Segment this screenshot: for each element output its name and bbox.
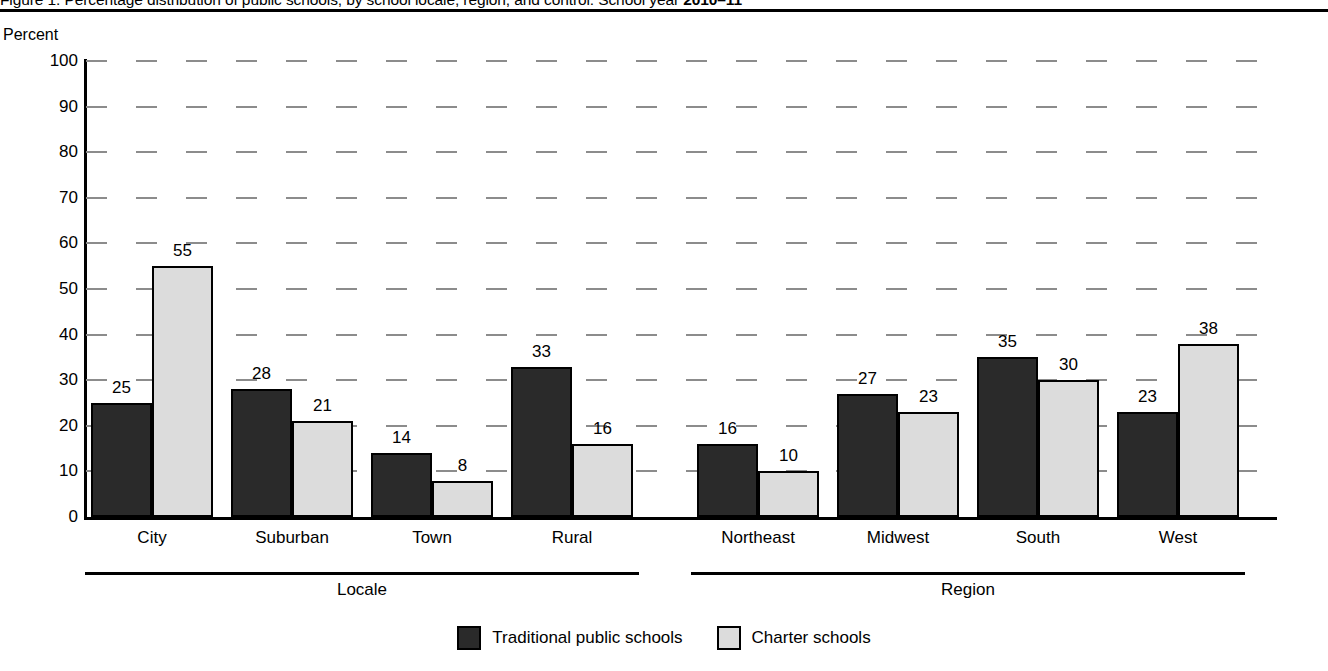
bar-midwest-charter [898, 412, 959, 517]
bar-suburban-traditional [231, 389, 292, 517]
legend-item-charter-schools: Charter schools [717, 626, 871, 650]
legend-item-traditional-public-schools: Traditional public schools [457, 626, 682, 650]
bar-city-traditional [91, 403, 152, 517]
plot-area: 2555282114833161610272335302338 [86, 61, 1277, 517]
bar-town-charter [432, 481, 493, 517]
bar-value-south-charter: 30 [1059, 355, 1078, 375]
gridline-40 [86, 334, 1277, 336]
gridline-90 [86, 106, 1277, 108]
category-label-town: Town [412, 528, 452, 548]
bar-value-rural-charter: 16 [593, 419, 612, 439]
bar-value-midwest-traditional: 27 [858, 369, 877, 389]
gridline-70 [86, 197, 1277, 199]
bar-west-charter [1178, 344, 1239, 517]
bar-town-traditional [371, 453, 432, 517]
bar-city-charter [152, 266, 213, 517]
y-tick-label-50: 50 [4, 279, 78, 299]
bar-northeast-charter [758, 471, 819, 517]
title-divider-rule [0, 9, 1328, 12]
gridline-100 [86, 60, 1277, 62]
y-tick-label-100: 100 [4, 51, 78, 71]
figure-title-text: Figure 1. Percentage distribution of pub… [0, 0, 683, 8]
category-label-city: City [137, 528, 166, 548]
bar-value-town-traditional: 14 [392, 428, 411, 448]
y-tick-label-20: 20 [4, 416, 78, 436]
bar-south-traditional [977, 357, 1038, 517]
bar-value-northeast-charter: 10 [779, 446, 798, 466]
bar-rural-charter [572, 444, 633, 517]
y-axis-tick-labels: 0102030405060708090100 [0, 0, 78, 671]
category-label-suburban: Suburban [255, 528, 329, 548]
category-label-rural: Rural [552, 528, 593, 548]
group-label-locale: Locale [337, 580, 387, 600]
bar-west-traditional [1117, 412, 1178, 517]
bar-midwest-traditional [837, 394, 898, 517]
bar-value-town-charter: 8 [458, 456, 467, 476]
bar-value-city-charter: 55 [173, 241, 192, 261]
bar-value-south-traditional: 35 [998, 332, 1017, 352]
x-axis-line [84, 517, 1277, 520]
category-label-west: West [1159, 528, 1197, 548]
bar-value-west-charter: 38 [1199, 319, 1218, 339]
y-tick-label-0: 0 [4, 507, 78, 527]
figure-title-year: 2010–11 [683, 0, 742, 8]
bar-value-suburban-charter: 21 [313, 396, 332, 416]
gridline-60 [86, 242, 1277, 244]
bar-value-west-traditional: 23 [1138, 387, 1157, 407]
y-tick-label-10: 10 [4, 461, 78, 481]
gridline-50 [86, 288, 1277, 290]
bar-south-charter [1038, 380, 1099, 517]
chart-legend: Traditional public schoolsCharter school… [0, 626, 1328, 650]
bar-suburban-charter [292, 421, 353, 517]
group-label-region: Region [941, 580, 995, 600]
y-tick-label-40: 40 [4, 325, 78, 345]
y-tick-label-70: 70 [4, 188, 78, 208]
y-tick-label-60: 60 [4, 233, 78, 253]
bar-value-northeast-traditional: 16 [718, 419, 737, 439]
group-rule-locale [85, 572, 639, 575]
category-label-northeast: Northeast [721, 528, 795, 548]
gridline-80 [86, 151, 1277, 153]
category-label-midwest: Midwest [867, 528, 929, 548]
group-rule-region [691, 572, 1245, 575]
bar-value-midwest-charter: 23 [919, 387, 938, 407]
bar-value-city-traditional: 25 [112, 378, 131, 398]
legend-label: Charter schools [752, 628, 871, 648]
bar-rural-traditional [511, 367, 572, 517]
y-tick-label-80: 80 [4, 142, 78, 162]
y-tick-label-30: 30 [4, 370, 78, 390]
bar-value-suburban-traditional: 28 [252, 364, 271, 384]
bar-value-rural-traditional: 33 [532, 342, 551, 362]
light-square-swatch [717, 626, 741, 650]
bar-northeast-traditional [697, 444, 758, 517]
legend-label: Traditional public schools [492, 628, 682, 648]
dark-square-swatch [457, 626, 481, 650]
y-tick-label-90: 90 [4, 97, 78, 117]
category-label-south: South [1016, 528, 1060, 548]
